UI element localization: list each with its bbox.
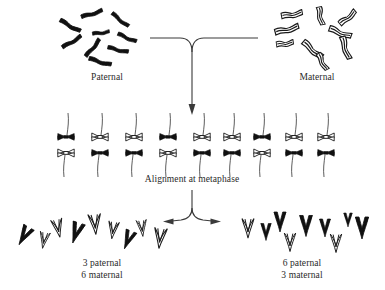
metaphase-chromosome-bottom-maternal — [254, 149, 270, 157]
daughter-left-chromosome-3-maternal — [51, 218, 66, 238]
paternal-chromosome-3 — [59, 18, 82, 33]
paternal-chromosome-1 — [81, 8, 103, 20]
daughter-cell-left-chromosomes — [14, 213, 167, 250]
spindle-fiber-bottom — [64, 155, 65, 177]
daughter-right-chromosome-4-maternal — [284, 233, 295, 252]
daughter-left-label: 3 paternal 6 maternal — [42, 258, 162, 282]
spindle-fiber-bottom — [292, 155, 293, 177]
paternal-chromosome-2 — [110, 11, 130, 28]
metaphase-pair-6 — [224, 113, 240, 177]
metaphase-pair-4 — [160, 113, 176, 177]
paternal-chromosome-4 — [92, 29, 109, 36]
metaphase-plate-group — [58, 113, 334, 177]
spindle-fiber-top — [295, 113, 296, 135]
metaphase-pair-3 — [126, 113, 142, 177]
daughter-left-chromosome-5-maternal — [88, 213, 102, 235]
metaphase-chromosome-bottom-maternal — [58, 149, 74, 157]
metaphase-chromosome-bottom-paternal — [126, 150, 142, 157]
daughter-right-chromosome-8-paternal — [344, 213, 352, 227]
metaphase-chromosome-bottom-paternal — [286, 150, 302, 157]
spindle-fiber-bottom — [98, 155, 99, 177]
metaphase-chromosome-top-maternal — [92, 133, 108, 141]
metaphase-chromosome-bottom-paternal — [92, 150, 108, 157]
spindle-fiber-top — [169, 113, 170, 135]
spindle-fiber-top — [327, 113, 328, 135]
daughter-right-chromosome-1-maternal — [242, 218, 254, 238]
daughter-left-chromosome-6-maternal — [106, 221, 119, 240]
maternal-chromosome-8 — [339, 36, 353, 60]
paternal-label: Paternal — [62, 72, 152, 84]
paternal-chromosome-7 — [84, 38, 102, 58]
spindle-fiber-top — [263, 113, 264, 135]
metaphase-chromosome-bottom-maternal — [160, 149, 176, 157]
metaphase-pair-7 — [254, 113, 270, 177]
spindle-fiber-top — [135, 113, 136, 135]
daughter-right-chromosome-5-paternal — [300, 215, 312, 236]
maternal-chromosome-3 — [338, 9, 358, 27]
spindle-fiber-top — [101, 113, 102, 135]
daughter-left-chromosome-7-paternal — [119, 229, 137, 251]
maternal-chromosome-cluster — [274, 6, 357, 71]
daughter-left-chromosome-2-maternal — [38, 231, 51, 249]
metaphase-pair-9 — [318, 113, 334, 177]
metaphase-chromosome-bottom-paternal — [224, 150, 240, 157]
maternal-chromosome-4 — [274, 23, 299, 36]
spindle-fiber-top — [67, 113, 68, 135]
meiosis-assortment-figure: Paternal Maternal Alignment at metaphase… — [0, 0, 385, 290]
metaphase-chromosome-top-paternal — [58, 134, 74, 141]
diagram-canvas — [0, 0, 385, 290]
daughter-right-chromosome-7-maternal — [330, 234, 341, 253]
daughter-right-chromosome-9-paternal — [355, 217, 368, 239]
paternal-chromosome-cluster — [59, 8, 138, 67]
daughter-right-chromosome-6-paternal — [320, 219, 331, 237]
maternal-chromosome-1 — [281, 9, 303, 20]
daughter-cell-right-chromosomes — [242, 212, 369, 252]
spindle-fiber-top — [233, 113, 234, 135]
metaphase-label: Alignment at metaphase — [107, 174, 277, 186]
daughter-left-chromosome-9-maternal — [153, 227, 168, 249]
daughter-right-label: 6 paternal 3 maternal — [242, 258, 362, 282]
merge-arrow — [150, 38, 258, 115]
metaphase-chromosome-bottom-paternal — [318, 150, 334, 157]
metaphase-chromosome-bottom-paternal — [194, 150, 210, 157]
daughter-left-chromosome-1-paternal — [14, 224, 34, 247]
paternal-chromosome-5 — [117, 32, 137, 44]
metaphase-chromosome-top-maternal — [224, 133, 240, 141]
maternal-chromosome-2 — [315, 6, 325, 25]
maternal-label: Maternal — [272, 72, 362, 84]
paternal-chromosome-9 — [88, 56, 112, 67]
maternal-chromosome-9 — [315, 52, 329, 71]
metaphase-pair-8 — [286, 113, 302, 177]
maternal-chromosome-6 — [276, 39, 294, 48]
spindle-fiber-bottom — [324, 155, 325, 177]
metaphase-chromosome-top-maternal — [318, 133, 334, 141]
daughter-right-chromosome-2-paternal — [261, 224, 271, 241]
spindle-fiber-top — [203, 113, 204, 135]
split-arrow — [163, 190, 221, 225]
metaphase-chromosome-top-maternal — [194, 133, 210, 141]
metaphase-pair-5 — [194, 113, 210, 177]
metaphase-chromosome-top-paternal — [254, 134, 270, 141]
paternal-chromosome-8 — [107, 45, 129, 54]
metaphase-chromosome-top-maternal — [126, 133, 142, 141]
metaphase-chromosome-top-paternal — [160, 134, 176, 141]
daughter-left-chromosome-4-paternal — [67, 221, 85, 245]
metaphase-pair-2 — [92, 113, 108, 177]
paternal-chromosome-6 — [61, 34, 82, 50]
daughter-left-chromosome-8-maternal — [136, 220, 148, 237]
metaphase-chromosome-top-maternal — [286, 133, 302, 141]
daughter-right-chromosome-3-paternal — [274, 212, 286, 232]
metaphase-pair-1 — [58, 113, 74, 177]
